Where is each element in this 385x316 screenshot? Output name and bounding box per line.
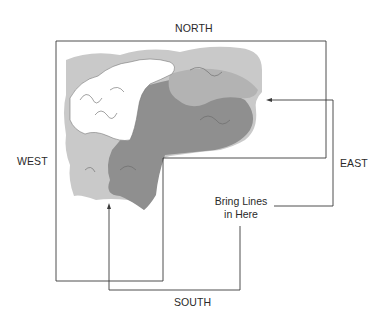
label-west: WEST bbox=[17, 155, 48, 167]
instruction-note: Bring Lines in Here bbox=[212, 195, 270, 221]
note-line-1: Bring Lines bbox=[212, 195, 270, 208]
label-south: SOUTH bbox=[174, 296, 211, 308]
label-north: NORTH bbox=[175, 22, 213, 34]
east-arrowhead-icon bbox=[266, 98, 272, 102]
note-line-2: in Here bbox=[212, 208, 270, 221]
east-leader-line bbox=[269, 100, 333, 206]
label-east: EAST bbox=[340, 157, 368, 169]
diagram-canvas bbox=[0, 0, 385, 316]
south-arrowhead-icon bbox=[107, 203, 111, 209]
